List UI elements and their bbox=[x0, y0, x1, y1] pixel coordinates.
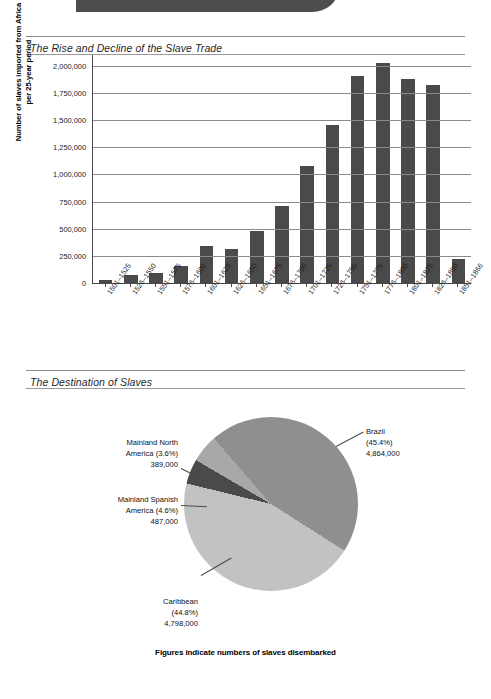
bar-chart-bar-cell bbox=[320, 55, 345, 283]
bar-chart-bar-cell bbox=[345, 55, 370, 283]
bar-chart-x-tick: 1826–1850 bbox=[420, 287, 445, 347]
bar-chart-x-tick: 1776–1800 bbox=[369, 287, 394, 347]
bar-chart-bar-cell bbox=[219, 55, 244, 283]
bar-chart-tick-mark bbox=[306, 283, 307, 287]
pie-callout-brazil: Brazil (45.4%) 4,864,000 bbox=[366, 426, 476, 459]
bar-chart-gridline bbox=[93, 256, 471, 257]
bar-chart-y-tick-label: 1,500,000 bbox=[26, 116, 86, 125]
bar-chart-gridline bbox=[93, 93, 471, 94]
pie-chart-caption: Figures indicate numbers of slaves disem… bbox=[0, 648, 491, 657]
bar-chart-y-tick-label: 250,000 bbox=[26, 251, 86, 260]
pie-callout-spanish-america-line2: America (4.6%) bbox=[28, 505, 178, 516]
pie-callout-north-america-line1: Mainland North bbox=[58, 437, 178, 448]
bar-chart-bars bbox=[93, 55, 471, 283]
bar-chart-y-tick-label: 500,000 bbox=[26, 224, 86, 233]
bar-chart-tick-mark bbox=[105, 283, 106, 287]
bar-chart-plot-area bbox=[92, 55, 471, 284]
pie-callout-caribbean: Caribbean (44.8%) 4,798,000 bbox=[88, 596, 198, 629]
bar-chart-bar-cell bbox=[143, 55, 168, 283]
bar-chart-x-tick: 1651–1675 bbox=[243, 287, 268, 347]
pie-callout-caribbean-line3: 4,798,000 bbox=[88, 618, 198, 629]
bar-chart-tick-mark bbox=[155, 283, 156, 287]
pie-callout-brazil-line1: Brazil bbox=[366, 426, 476, 437]
pie-chart: Mainland North America (3.6%) 389,000 Ma… bbox=[0, 395, 491, 695]
bar-chart-x-tick: 1676–1700 bbox=[268, 287, 293, 347]
bar-chart-bar-cell bbox=[194, 55, 219, 283]
bar-chart-gridline bbox=[93, 202, 471, 203]
bar-chart-bar bbox=[426, 85, 440, 283]
bar-chart-tick-mark bbox=[205, 283, 206, 287]
bar-chart-bar bbox=[376, 63, 390, 283]
pie-callout-north-america-line2: America (3.6%) bbox=[58, 448, 178, 459]
bar-chart-bar-cell bbox=[269, 55, 294, 283]
bar-chart-x-tick: 1801–1825 bbox=[394, 287, 419, 347]
bar-chart-x-tick: 1751–1775 bbox=[344, 287, 369, 347]
bar-chart-y-tick-label: 1,000,000 bbox=[26, 170, 86, 179]
pie-callout-north-america-line3: 389,000 bbox=[58, 459, 178, 470]
bar-chart-bar-cell bbox=[93, 55, 118, 283]
pie-callout-spanish-america-line1: Mainland Spanish bbox=[28, 494, 178, 505]
pie-section-title: The Destination of Slaves bbox=[26, 371, 465, 393]
pie-callout-caribbean-line2: (44.8%) bbox=[88, 607, 198, 618]
bar-chart-x-tick: 1726–1750 bbox=[319, 287, 344, 347]
pie-callout-north-america: Mainland North America (3.6%) 389,000 bbox=[58, 437, 178, 470]
bar-chart-bar-cell bbox=[295, 55, 320, 283]
bar-chart-x-tick: 1501–1525 bbox=[92, 287, 117, 347]
bar-chart-y-tick-label: 1,750,000 bbox=[26, 89, 86, 98]
page-header-banner bbox=[76, 0, 338, 12]
bar-chart-tick-mark bbox=[407, 283, 408, 287]
pie-callout-brazil-line2: (45.4%) bbox=[366, 437, 476, 448]
bar-chart-bar-cell bbox=[395, 55, 420, 283]
bar-chart-tick-mark bbox=[357, 283, 358, 287]
pie-callout-spanish-america: Mainland Spanish America (4.6%) 487,000 bbox=[28, 494, 178, 527]
bar-chart: Number of slaves imported from Africa pe… bbox=[0, 55, 491, 355]
bar-chart-x-tick: 1626–1650 bbox=[218, 287, 243, 347]
bar-chart-tick-mark bbox=[457, 283, 458, 287]
pie-callout-brazil-line3: 4,864,000 bbox=[366, 448, 476, 459]
bar-chart-x-ticks: 1501–15251526–15501551–15751576–16001601… bbox=[92, 287, 470, 347]
bar-chart-gridline bbox=[93, 147, 471, 148]
bar-chart-x-tick: 1576–1600 bbox=[168, 287, 193, 347]
pie-section-header: The Destination of Slaves bbox=[26, 370, 465, 393]
bar-chart-tick-mark bbox=[130, 283, 131, 287]
bar-chart-tick-mark bbox=[382, 283, 383, 287]
bar-chart-bar-cell bbox=[118, 55, 143, 283]
bar-chart-x-tick: 1551–1575 bbox=[142, 287, 167, 347]
bar-chart-bar-cell bbox=[169, 55, 194, 283]
pie-callout-caribbean-line1: Caribbean bbox=[88, 596, 198, 607]
bar-chart-tick-mark bbox=[180, 283, 181, 287]
bar-chart-tick-mark bbox=[331, 283, 332, 287]
bar-chart-tick-mark bbox=[281, 283, 282, 287]
bar-chart-bar bbox=[351, 76, 365, 283]
bar-chart-bar-cell bbox=[244, 55, 269, 283]
bar-chart-x-tick: 1601–1625 bbox=[193, 287, 218, 347]
bar-chart-bar-cell bbox=[370, 55, 395, 283]
pie-leader-brazil bbox=[336, 431, 364, 446]
bar-chart-x-tick: 1526–1550 bbox=[117, 287, 142, 347]
bar-chart-y-tick-label: 0 bbox=[26, 279, 86, 288]
bar-chart-tick-mark bbox=[432, 283, 433, 287]
bar-chart-y-tick-label: 2,000,000 bbox=[26, 61, 86, 70]
bar-chart-tick-mark bbox=[256, 283, 257, 287]
bar-chart-x-tick: 1851–1866 bbox=[445, 287, 470, 347]
bar-chart-tick-mark bbox=[231, 283, 232, 287]
pie-callout-spanish-america-line3: 487,000 bbox=[28, 516, 178, 527]
pie-section-divider bbox=[26, 388, 465, 389]
bar-chart-bar bbox=[401, 79, 415, 283]
bar-chart-x-tick: 1701–1725 bbox=[294, 287, 319, 347]
bar-chart-bar-cell bbox=[421, 55, 446, 283]
bar-chart-y-ticks: 0250,000500,000750,0001,000,0001,250,000… bbox=[24, 55, 86, 283]
bar-chart-y-tick-label: 1,250,000 bbox=[26, 143, 86, 152]
pie-chart-circle bbox=[184, 417, 358, 591]
bar-chart-gridline bbox=[93, 66, 471, 67]
bar-chart-gridline bbox=[93, 174, 471, 175]
bar-chart-y-tick-label: 750,000 bbox=[26, 197, 86, 206]
bar-chart-gridline bbox=[93, 229, 471, 230]
bar-chart-bar-cell bbox=[446, 55, 471, 283]
bar-chart-gridline bbox=[93, 120, 471, 121]
